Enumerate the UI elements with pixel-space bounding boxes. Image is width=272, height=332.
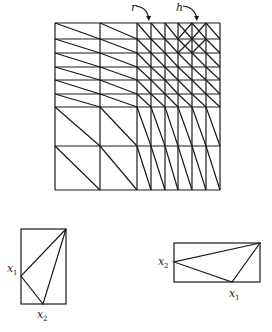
cell-diagonal — [192, 107, 206, 146]
label-h: h — [176, 1, 199, 21]
left-rectangle — [21, 229, 66, 304]
mesh-diagram: r h x 1 x 2 x 2 x 1 — [0, 0, 272, 332]
cell-diagonal — [178, 107, 192, 146]
cell-diagonal — [165, 146, 178, 190]
cell-diagonal — [100, 67, 137, 80]
cell-diagonal — [206, 94, 220, 107]
cell-diagonal — [206, 146, 220, 190]
cell-diagonal — [151, 146, 165, 190]
cell-diagonal — [165, 53, 178, 67]
cell-diagonal — [151, 107, 165, 146]
cell-diagonal — [165, 39, 178, 53]
cell-diagonal — [192, 80, 206, 94]
cell-diagonal — [100, 53, 137, 67]
arrowhead-r-icon — [146, 16, 151, 21]
cell-diagonal — [100, 146, 137, 190]
cell-diagonal — [206, 53, 220, 67]
svg-text:1: 1 — [13, 269, 17, 277]
left-x2-label: x 2 — [37, 308, 47, 323]
svg-text:h: h — [176, 1, 183, 14]
cell-diagonal — [55, 53, 100, 67]
cell-diagonal — [55, 146, 100, 190]
cell-diagonal — [178, 80, 192, 94]
cell-diagonal — [55, 94, 100, 107]
cell-diagonal — [206, 23, 220, 39]
cell-diagonal — [137, 39, 151, 53]
cell-diagonal — [165, 94, 178, 107]
label-r: r — [131, 1, 151, 21]
cell-diagonal — [206, 67, 220, 80]
cell-diagonal — [137, 94, 151, 107]
svg-text:1: 1 — [235, 294, 239, 302]
cell-diagonal — [137, 146, 151, 190]
cell-diagonal — [55, 107, 100, 146]
cell-diagonal — [178, 94, 192, 107]
triangle-left-diagram: x 1 x 2 — [7, 229, 66, 323]
arrowhead-h-icon — [194, 16, 199, 21]
cell-diagonal — [192, 67, 206, 80]
cell-diagonal — [192, 94, 206, 107]
cell-diagonal — [100, 23, 137, 39]
right-rectangle — [174, 243, 260, 282]
left-x1-label: x 1 — [7, 262, 17, 277]
refined-triangular-mesh — [55, 23, 220, 190]
cell-diagonal — [165, 80, 178, 94]
cell-diagonal — [151, 39, 165, 53]
cell-diagonal — [165, 23, 178, 39]
cell-diagonal — [165, 67, 178, 80]
cell-diagonal — [151, 80, 165, 94]
cell-diagonal — [206, 80, 220, 94]
cell-diagonal — [137, 23, 151, 39]
cell-diagonal — [137, 80, 151, 94]
right-triangle — [174, 243, 260, 282]
cell-diagonal — [206, 107, 220, 146]
cell-diagonal — [55, 39, 100, 53]
right-x1-label: x 1 — [229, 287, 239, 302]
cell-diagonal — [100, 94, 137, 107]
cell-diagonal — [55, 67, 100, 80]
cell-diagonal — [137, 107, 151, 146]
cell-diagonal — [55, 80, 100, 94]
cell-diagonal — [206, 39, 220, 53]
cell-diagonal — [178, 53, 192, 67]
right-x2-label: x 2 — [158, 255, 168, 270]
cell-diagonal — [137, 67, 151, 80]
svg-text:2: 2 — [43, 315, 47, 323]
cell-diagonal — [178, 146, 192, 190]
cell-diagonal — [151, 67, 165, 80]
cell-diagonal — [192, 146, 206, 190]
cell-diagonal — [55, 23, 100, 39]
cell-diagonal — [165, 107, 178, 146]
svg-text:r: r — [131, 1, 137, 14]
triangle-right-diagram: x 2 x 1 — [158, 243, 260, 302]
cell-diagonal — [151, 53, 165, 67]
svg-text:2: 2 — [164, 262, 168, 270]
cell-diagonal — [100, 107, 137, 146]
cell-diagonal — [100, 39, 137, 53]
cell-diagonal — [100, 80, 137, 94]
cell-diagonal — [137, 53, 151, 67]
cell-diagonal — [151, 94, 165, 107]
cell-diagonal — [192, 53, 206, 67]
cell-diagonal — [151, 23, 165, 39]
cell-diagonal — [178, 67, 192, 80]
left-triangle — [21, 229, 66, 304]
